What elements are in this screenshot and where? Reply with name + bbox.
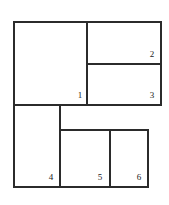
region-4-label: 4 (49, 172, 54, 182)
region-6-label: 6 (137, 172, 142, 182)
region-1-border (14, 22, 87, 105)
region-3-label: 3 (150, 90, 155, 100)
region-3: 3 (87, 64, 161, 105)
region-2-label: 2 (150, 49, 155, 59)
region-5-label: 5 (98, 172, 103, 182)
partition-diagram: 1 2 3 4 5 6 (0, 0, 169, 205)
region-4: 4 (14, 105, 60, 187)
region-2: 2 (87, 22, 161, 64)
region-5: 5 (60, 130, 110, 187)
region-6-border (110, 130, 148, 187)
region-5-border (60, 130, 110, 187)
region-1: 1 (14, 22, 87, 105)
region-6: 6 (110, 130, 148, 187)
region-1-label: 1 (78, 90, 83, 100)
